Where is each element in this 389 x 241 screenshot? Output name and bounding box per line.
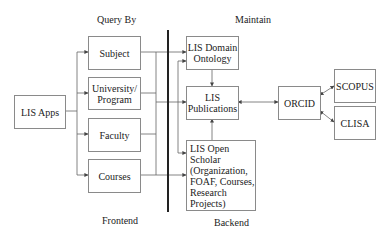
query-by-label: Query By: [97, 14, 136, 25]
node-clisa: CLISA: [334, 106, 376, 140]
node-orcid: ORCID: [278, 86, 321, 120]
backend-label: Backend: [214, 217, 249, 228]
node-lis-open-scholar: LIS Open Scholar (Organization, FOAF, Co…: [186, 140, 256, 211]
frontend-label: Frontend: [102, 215, 138, 226]
node-faculty: Faculty: [88, 118, 141, 152]
node-lis-domain-ontology: LIS Domain Ontology: [186, 36, 239, 70]
node-scopus: SCOPUS: [334, 69, 376, 103]
node-subject: Subject: [88, 36, 141, 70]
node-university-program: University/ Program: [88, 77, 141, 110]
node-courses: Courses: [88, 159, 141, 193]
maintain-label: Maintain: [235, 14, 271, 25]
node-lis-apps: LIS Apps: [14, 95, 66, 129]
node-lis-publications: LIS Publications: [186, 86, 239, 120]
